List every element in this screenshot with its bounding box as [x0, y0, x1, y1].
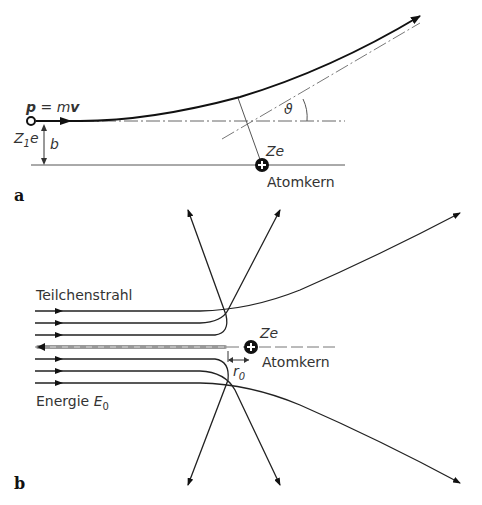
distance-label: r0	[233, 364, 245, 382]
figure-b	[35, 210, 460, 485]
momentum-arrow	[60, 117, 72, 125]
impact-parameter-label: b	[50, 137, 59, 151]
outgoing-asymptote	[222, 23, 420, 139]
angle-label: ϑ	[284, 102, 293, 116]
angle-arc	[303, 99, 307, 121]
part-label-b: b	[14, 474, 25, 493]
nucleus-icon-a	[255, 158, 269, 172]
beam-label: Teilchenstrahl	[36, 288, 133, 302]
perpendicular-line	[238, 98, 262, 165]
nucleus-label-a: Atomkern	[267, 175, 335, 189]
beam-trajectory	[35, 359, 228, 485]
energy-label: Energie E0	[36, 394, 109, 412]
nucleus-icon-b	[244, 340, 258, 354]
projectile-charge-label: Z1e	[14, 131, 39, 149]
part-label-a: a	[14, 186, 24, 205]
scattering-diagram	[0, 0, 482, 505]
nucleus-charge-label-a: Ze	[266, 144, 284, 158]
nucleus-charge-label-b: Ze	[260, 326, 278, 340]
projectile-particle	[27, 117, 35, 125]
beam-trajectory	[35, 210, 227, 335]
momentum-label: p = mv	[26, 100, 79, 114]
nucleus-label-b: Atomkern	[262, 355, 330, 369]
figure-a	[27, 16, 420, 172]
trajectory	[36, 16, 420, 121]
